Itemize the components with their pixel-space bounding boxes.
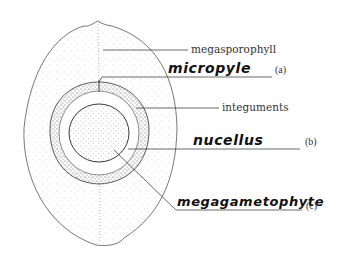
nucellus-circle [69,104,129,162]
megasporophyll-label: megasporophyll [191,43,277,55]
nucellus-answer: nucellus [193,132,263,148]
micropyle-tag: (a) [275,64,286,76]
micropyle-answer: micropyle [168,60,251,76]
ovule-diagram: megasporophyll micropyle (a) integuments… [0,0,338,255]
megagametophyte-answer: megagametophyte [177,194,324,209]
integuments-label: integuments [222,101,289,113]
megagametophyte-tag: (c) [306,200,317,212]
nucellus-tag: (b) [305,136,317,148]
